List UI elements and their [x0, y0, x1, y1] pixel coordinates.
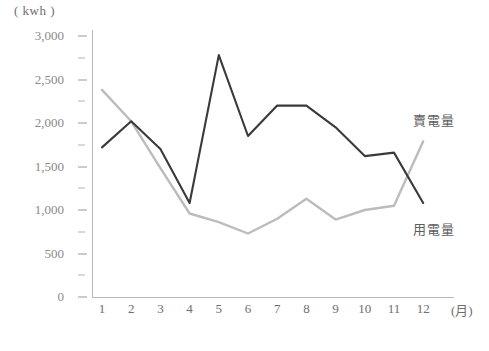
- chart-canvas: ( kwh ) 05001,0001,5002,0002,5003,000 12…: [0, 0, 489, 351]
- series-label-sold: 賣電量: [413, 110, 455, 129]
- plot-area: [0, 0, 489, 351]
- series-label-used: 用電量: [413, 219, 455, 238]
- line-series-used: [102, 90, 423, 234]
- x-axis-unit-label: (月): [451, 300, 473, 319]
- line-series-sold: [102, 55, 423, 203]
